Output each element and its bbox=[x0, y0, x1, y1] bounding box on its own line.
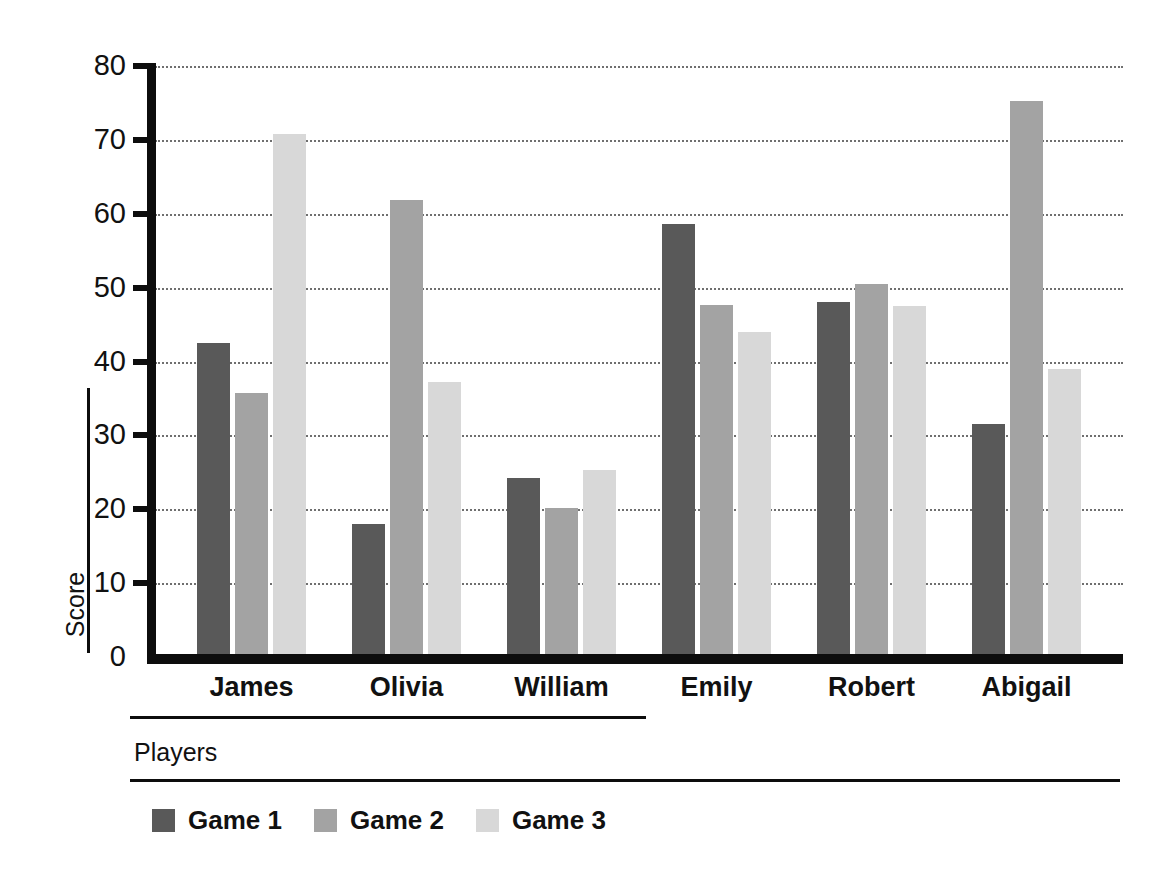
y-axis-tick bbox=[133, 359, 147, 365]
legend-item[interactable]: Game 2 bbox=[314, 805, 444, 836]
bar bbox=[1010, 101, 1043, 657]
legend-label: Game 3 bbox=[512, 805, 606, 836]
legend-swatch bbox=[152, 809, 175, 832]
bar bbox=[700, 305, 733, 657]
y-axis-tick bbox=[133, 211, 147, 217]
category-separator-rule bbox=[130, 716, 646, 719]
y-axis-tick-label: 60 bbox=[94, 197, 126, 230]
y-axis-tick-label: 40 bbox=[94, 345, 126, 378]
y-axis-tick bbox=[133, 285, 147, 291]
bar bbox=[273, 134, 306, 657]
y-axis-tick-label: 80 bbox=[94, 49, 126, 82]
legend: Game 1Game 2Game 3 bbox=[152, 800, 638, 840]
legend-label: Game 1 bbox=[188, 805, 282, 836]
y-axis-tick-label: 70 bbox=[94, 123, 126, 156]
bar bbox=[1048, 369, 1081, 657]
bar bbox=[893, 306, 926, 657]
x-axis-category-label: James bbox=[162, 672, 342, 703]
bar bbox=[428, 382, 461, 657]
y-axis-tick-label: 30 bbox=[94, 418, 126, 451]
legend-swatch bbox=[476, 809, 499, 832]
bar bbox=[662, 224, 695, 657]
y-axis-spine bbox=[147, 63, 156, 660]
bar bbox=[972, 424, 1005, 657]
legend-separator-rule bbox=[130, 779, 1120, 782]
bar bbox=[545, 508, 578, 657]
bar bbox=[583, 470, 616, 657]
y-axis-tick bbox=[133, 137, 147, 143]
x-axis-title-text: Players bbox=[134, 738, 217, 767]
bar bbox=[507, 478, 540, 657]
y-axis-tick-labels: 01020304050607080 bbox=[0, 0, 126, 877]
x-axis-category-label: Emily bbox=[627, 672, 807, 703]
y-axis-title-text: Score bbox=[61, 550, 90, 660]
plot-area bbox=[155, 66, 1123, 657]
x-axis-category-label: Robert bbox=[782, 672, 962, 703]
x-axis-spine bbox=[147, 654, 1123, 664]
chart-page: 01020304050607080 JamesOliviaWilliamEmil… bbox=[0, 0, 1169, 877]
y-axis-tick bbox=[133, 432, 147, 438]
bar bbox=[352, 524, 385, 657]
y-axis-tick-label: 10 bbox=[94, 566, 126, 599]
y-axis-tick-label: 20 bbox=[94, 492, 126, 525]
gridline bbox=[155, 66, 1123, 68]
y-axis-tick bbox=[133, 580, 147, 586]
legend-item[interactable]: Game 1 bbox=[152, 805, 282, 836]
legend-item[interactable]: Game 3 bbox=[476, 805, 606, 836]
bar bbox=[855, 284, 888, 657]
bar bbox=[817, 302, 850, 657]
x-axis-category-label: William bbox=[472, 672, 652, 703]
x-axis-category-label: Olivia bbox=[317, 672, 497, 703]
y-axis-tick bbox=[133, 63, 147, 69]
bar bbox=[738, 332, 771, 657]
bar bbox=[235, 393, 268, 657]
bar bbox=[390, 200, 423, 657]
y-axis-tick-label: 0 bbox=[110, 640, 126, 673]
y-axis-title: Score bbox=[42, 560, 82, 680]
y-axis-tick bbox=[133, 506, 147, 512]
x-axis-category-label: Abigail bbox=[937, 672, 1117, 703]
legend-swatch bbox=[314, 809, 337, 832]
y-axis-title-rule bbox=[87, 388, 90, 653]
legend-label: Game 2 bbox=[350, 805, 444, 836]
y-axis-tick-label: 50 bbox=[94, 271, 126, 304]
bar bbox=[197, 343, 230, 657]
